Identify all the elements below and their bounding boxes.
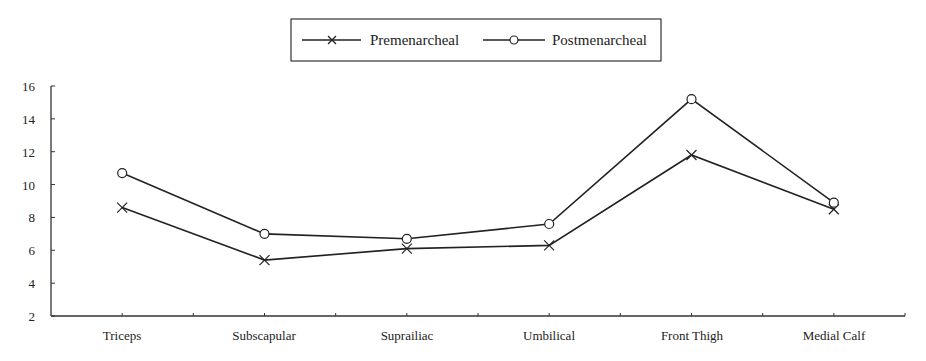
y-tick-label: 4 [29,276,36,291]
circle-marker-icon [118,169,127,178]
y-ticks: 246810121416 [22,79,55,324]
x-label-suprailiac: Suprailiac [381,328,434,343]
x-marker-icon [687,150,697,160]
circle-marker-icon [260,229,269,238]
line-chart: Premenarcheal Postmenarcheal 24681012141… [0,0,926,361]
y-tick-label: 6 [29,243,36,258]
y-tick-label: 16 [22,79,36,94]
y-tick-label: 2 [29,309,36,324]
x-labels: Triceps Subscapular Suprailiac Umbilical… [103,328,866,343]
x-label-subscapular: Subscapular [232,328,296,343]
y-tick-label: 10 [22,178,35,193]
x-label-front-thigh: Front Thigh [661,328,724,343]
legend: Premenarcheal Postmenarcheal [291,19,661,61]
circle-icon [510,36,518,44]
series-layer [117,95,839,266]
y-tick-label: 8 [29,210,36,225]
x-marker-icon [117,203,127,213]
y-tick-label: 12 [22,145,35,160]
circle-marker-icon [829,198,838,207]
legend-label-premenarcheal: Premenarcheal [370,32,459,48]
x-label-medial-calf: Medial Calf [803,328,866,343]
axes: 246810121416 [22,79,905,324]
x-label-umbilical: Umbilical [523,328,575,343]
x-label-triceps: Triceps [103,328,142,343]
series-line [122,155,834,260]
circle-marker-icon [687,95,696,104]
circle-marker-icon [545,220,554,229]
legend-label-postmenarcheal: Postmenarcheal [552,32,647,48]
series-premenarcheal [117,150,839,265]
y-tick-label: 14 [22,112,36,127]
circle-marker-icon [402,234,411,243]
